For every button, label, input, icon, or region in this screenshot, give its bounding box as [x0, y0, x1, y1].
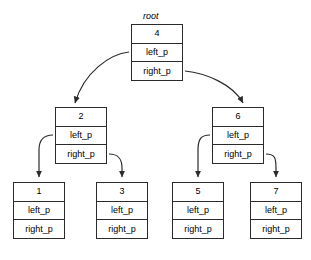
node-key: 1 [14, 183, 64, 202]
node-left-pointer: left_p [173, 202, 223, 221]
node-left-pointer: left_p [14, 202, 64, 221]
node-right-pointer: right_p [251, 220, 301, 238]
tree-node-1: 1 left_p right_p [13, 182, 65, 239]
tree-node-root: 4 left_p right_p [131, 24, 183, 81]
node-key: 6 [213, 108, 263, 127]
node-left-pointer: left_p [213, 127, 263, 146]
node-right-pointer: right_p [173, 220, 223, 238]
edge-2-right [109, 154, 122, 177]
tree-node-6: 6 left_p right_p [212, 107, 264, 164]
edge-6-right [266, 154, 276, 177]
tree-node-2: 2 left_p right_p [55, 107, 107, 164]
node-key: 4 [132, 25, 182, 44]
edge-root-left [75, 52, 129, 103]
node-left-pointer: left_p [132, 44, 182, 63]
edge-2-left [39, 135, 53, 177]
node-key: 7 [251, 183, 301, 202]
tree-node-5: 5 left_p right_p [172, 182, 224, 239]
node-right-pointer: right_p [97, 220, 147, 238]
node-right-pointer: right_p [213, 145, 263, 163]
tree-node-7: 7 left_p right_p [250, 182, 302, 239]
edge-root-right [185, 71, 243, 103]
node-right-pointer: right_p [132, 62, 182, 80]
node-key: 3 [97, 183, 147, 202]
root-caption: root [143, 11, 159, 21]
node-right-pointer: right_p [56, 145, 106, 163]
node-left-pointer: left_p [251, 202, 301, 221]
binary-tree-diagram: root 4 left_p right_p 2 left_p right_p [0, 0, 311, 260]
node-right-pointer: right_p [14, 220, 64, 238]
tree-node-3: 3 left_p right_p [96, 182, 148, 239]
node-key: 5 [173, 183, 223, 202]
node-left-pointer: left_p [97, 202, 147, 221]
node-left-pointer: left_p [56, 127, 106, 146]
edge-6-left [198, 135, 210, 177]
node-key: 2 [56, 108, 106, 127]
